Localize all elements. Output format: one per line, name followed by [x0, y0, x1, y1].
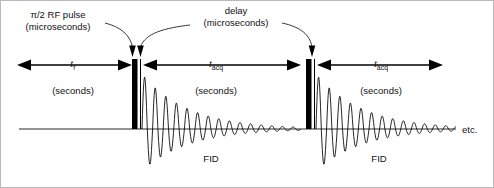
tacq-2-symbol-label: tacq	[374, 58, 388, 74]
tacq-1-units-label: (seconds)	[195, 85, 237, 97]
fid-label-1: FID	[203, 153, 218, 165]
nmr-pulse-sequence-figure: π/2 RF pulse (microseconds) delay (micro…	[0, 0, 494, 188]
callout-arrow-rf-pulse	[105, 23, 136, 57]
delay-units: (microseconds)	[204, 17, 269, 29]
rf-pulse-title: π/2 RF pulse	[26, 9, 91, 21]
etc-label: etc.	[462, 124, 477, 136]
tr-units-label: (seconds)	[52, 85, 94, 97]
rf-pulse-caption: π/2 RF pulse (microseconds)	[26, 9, 91, 32]
fid-label-2: FID	[371, 153, 386, 165]
delay-caption: delay (microseconds)	[204, 5, 269, 28]
tacq-2-units-label: (seconds)	[360, 85, 402, 97]
rf-pulse-bar-1	[132, 59, 138, 129]
tr-symbol-label: tr	[70, 58, 75, 74]
callout-arrow-delay-left	[137, 25, 190, 57]
callout-arrow-delay-right	[282, 23, 315, 57]
tacq-1-symbol-label: tacq	[209, 58, 223, 74]
rf-pulse-units: (microseconds)	[26, 21, 91, 33]
delay-title: delay	[204, 5, 269, 17]
rf-pulse-bar-2	[306, 59, 312, 129]
